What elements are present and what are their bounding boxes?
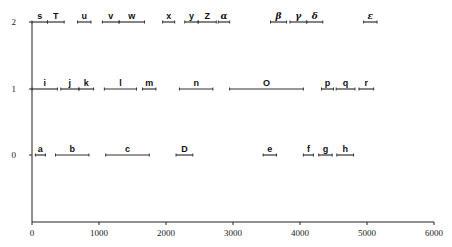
segment-label: s [37,11,42,21]
segment-δ: δ [307,11,323,24]
segment-label: Z [204,11,210,21]
segment-label: k [84,78,90,88]
segment-m: m [143,78,156,91]
y-tick-label: 0 [12,150,17,160]
segment-label: j [68,78,72,88]
segment-label: m [145,78,153,88]
segment-label: b [69,144,75,154]
segment-b: b [55,144,88,157]
segment-D: D [176,144,193,157]
segment-w: w [119,11,144,24]
segment-h: h [337,144,354,157]
segment-n: n [179,78,213,91]
segment-e: e [263,144,276,157]
segment-T: T [47,11,64,24]
segment-r: r [359,78,374,91]
segment-label: l [119,78,122,88]
segment-label: f [307,144,311,154]
segment-Z: Z [198,11,216,24]
segment-u: u [78,11,91,24]
segment-y: y [185,11,198,24]
segment-k: k [79,78,94,91]
segment-label: δ [311,11,318,21]
y-tick-label: 1 [12,84,17,94]
segment-label: c [125,144,130,154]
segment-label: r [365,78,369,88]
segment-label: q [343,78,349,88]
x-tick-label: 0 [30,228,35,238]
y-tick-label: 2 [12,17,17,27]
segment-p: p [321,78,333,91]
segment-label: T [53,11,59,21]
segment-label: a [38,144,44,154]
segment-label: D [181,144,188,154]
segment-label: y [189,11,194,21]
segment-v: v [102,11,119,24]
y-ticks: 012 [12,17,33,160]
segment-label: n [193,78,199,88]
segment-label: β [275,11,282,21]
segment-j: j [61,78,79,91]
segment-q: q [336,78,355,91]
segment-s: s [32,11,47,24]
segment-label: v [108,11,113,21]
segment-c: c [106,144,150,157]
x-tick-label: 6000 [425,228,444,238]
segment-γ: γ [290,11,307,24]
segment-label: i [43,78,46,88]
axes [32,22,434,222]
segments: abcDefghijklmnOpqrsTuvwxyZαβγδε [32,11,377,157]
segment-label: h [342,144,348,154]
segment-label: γ [295,11,302,21]
segment-label: u [82,11,88,21]
segment-g: g [319,144,332,157]
segment-label: g [323,144,329,154]
segment-label: O [263,78,270,88]
x-tick-label: 4000 [291,228,310,238]
segment-label: x [166,11,171,21]
segment-label: α [220,11,227,21]
x-tick-label: 1000 [90,228,109,238]
x-ticks: 0100020003000400050006000 [30,222,444,238]
segment-label: ε [368,11,374,21]
segment-label: w [127,11,136,21]
x-tick-label: 3000 [224,228,243,238]
segment-x: x [163,11,175,24]
segment-l: l [104,78,136,91]
segment-α: α [218,11,229,24]
segment-O: O [230,78,304,91]
segment-β: β [271,11,287,24]
segment-a: a [35,144,45,157]
x-tick-label: 2000 [157,228,176,238]
segment-i: i [32,78,57,91]
segment-label: p [325,78,331,88]
interval-chart: 0100020003000400050006000 012 abcDefghij… [0,0,452,247]
x-tick-label: 5000 [358,228,377,238]
segment-ε: ε [364,11,377,24]
segment-f: f [303,144,313,157]
segment-label: e [267,144,272,154]
